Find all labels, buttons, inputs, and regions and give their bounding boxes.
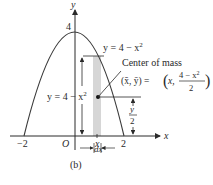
tick-neg-two: −2 [17,138,28,149]
parabola-diagram: y x 4 −2 2 O x y = 4 − x2 y = 4 − x2 y 2… [0,0,213,185]
strip-height-label: y = 4 − x2 [47,90,87,102]
curve-equation: y = 4 − x2 [103,41,143,53]
origin-label: O [62,138,69,149]
tick-four: 4 [66,21,71,32]
y-axis-label: y [70,0,76,10]
center-of-mass-title: Center of mass [122,57,182,68]
center-of-mass-den: 2 [189,83,193,93]
center-of-mass-lhs: (x̄, ȳ) = [121,76,149,87]
x-axis-label: x [163,130,169,141]
dx-label: dx [94,144,103,154]
center-of-mass-num: 4 − x2 [179,70,200,80]
half-y-num: y [129,104,134,114]
figure-caption: (b) [70,159,82,171]
svg-text:): ) [205,72,210,90]
tick-two: 2 [121,138,126,149]
half-y-den: 2 [130,116,135,126]
leader-line [98,71,121,97]
center-of-mass-x: x, [167,76,175,86]
